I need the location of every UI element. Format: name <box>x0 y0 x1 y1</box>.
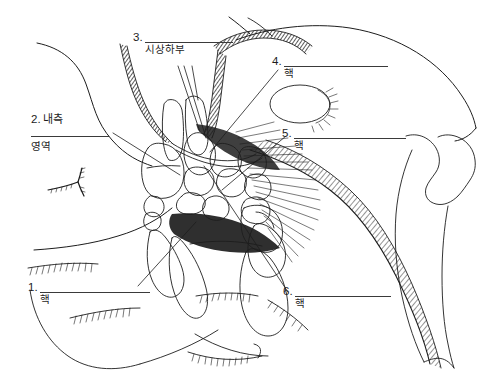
label-4-row: 4. <box>272 55 388 67</box>
oval-structure <box>270 85 338 132</box>
leader-line-3a <box>178 66 200 132</box>
anatomy-illustration <box>0 0 483 388</box>
label-3: 3. 시상하부 <box>133 31 233 55</box>
label-5-blank[interactable] <box>294 127 406 139</box>
label-1-blank[interactable] <box>40 281 150 293</box>
label-3-suffix: 시상하부 <box>133 44 233 55</box>
label-2-prefix: 내측 <box>43 114 63 126</box>
label-6-number: 6. <box>283 285 293 297</box>
label-3-number: 3. <box>133 31 143 43</box>
label-2: 2. 내측 영역 <box>31 113 109 152</box>
label-5-suffix: 핵 <box>282 140 406 151</box>
figure-canvas: 3. 시상하부 2. 내측 영역 4. 핵 5. 핵 1. 핵 <box>0 0 483 388</box>
label-4-blank[interactable] <box>284 55 388 67</box>
label-1-suffix: 핵 <box>28 294 150 305</box>
label-2-blank[interactable] <box>31 125 109 137</box>
label-3-row: 3. <box>133 31 233 43</box>
label-3-blank[interactable] <box>145 31 233 43</box>
label-6-blank[interactable] <box>295 285 391 297</box>
label-2-number: 2. <box>31 113 41 125</box>
label-5-row: 5. <box>282 127 406 139</box>
label-1-row: 1. <box>28 281 150 293</box>
small-hatch-mark <box>48 168 85 196</box>
label-1-number: 1. <box>28 281 38 293</box>
leader-line-2 <box>113 133 180 175</box>
label-6: 6. 핵 <box>283 285 391 309</box>
label-5-number: 5. <box>282 127 292 139</box>
label-4-suffix: 핵 <box>272 68 388 79</box>
label-2-row: 2. 내측 <box>31 113 109 125</box>
brainstem-right-outline <box>395 135 475 368</box>
label-4: 4. 핵 <box>272 55 388 79</box>
label-2-suffix: 영역 <box>31 141 109 152</box>
label-6-suffix: 핵 <box>283 298 391 309</box>
label-6-row: 6. <box>283 285 391 297</box>
leader-line-1 <box>138 222 196 286</box>
label-5: 5. 핵 <box>282 127 406 151</box>
label-1: 1. 핵 <box>28 281 150 305</box>
label-4-number: 4. <box>272 55 282 67</box>
